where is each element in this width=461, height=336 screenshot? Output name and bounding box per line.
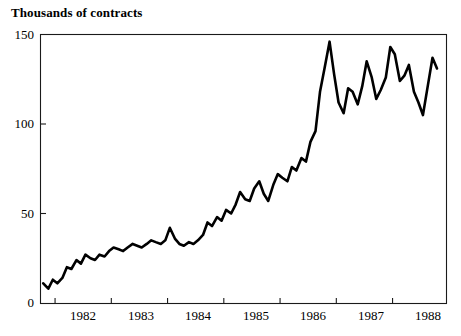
chart-container: Thousands of contracts 150 100 50 0 1982… bbox=[0, 0, 461, 336]
plot-area bbox=[0, 0, 461, 336]
